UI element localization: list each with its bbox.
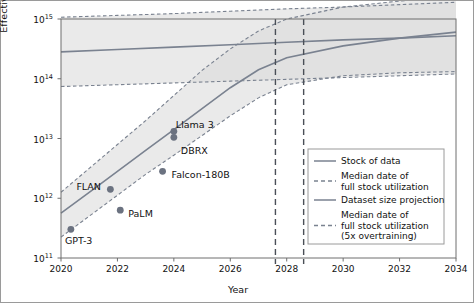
chart-frame: Effective stock (number of tokens) Year … [0, 0, 474, 303]
legend-item-label[interactable]: Stock of data [341, 156, 401, 167]
data-point-dbrx[interactable] [170, 134, 177, 141]
data-point-label: Falcon-180B [172, 169, 230, 180]
data-point-falcon-180b[interactable] [159, 168, 166, 175]
data-point-label: GPT-3 [65, 235, 93, 246]
legend-item-label[interactable]: Dataset size projection [341, 195, 444, 206]
x-tick-label: 2022 [97, 264, 137, 274]
data-point-label: DBRX [181, 145, 208, 156]
y-tick-label: 1013 [19, 133, 53, 145]
x-tick-label: 2034 [436, 264, 474, 274]
legend-item-label[interactable]: Median date offull stock utilization [341, 171, 429, 192]
data-point-label: Llama 3 [176, 119, 214, 130]
x-tick-label: 2032 [380, 264, 420, 274]
plot-stage [1, 1, 474, 303]
x-tick-label: 2028 [267, 264, 307, 274]
data-point-label: FLAN [76, 181, 101, 192]
x-tick-label: 2030 [323, 264, 363, 274]
x-tick-label: 2026 [210, 264, 250, 274]
data-point-gpt-3[interactable] [67, 226, 74, 233]
data-point-label: PaLM [128, 208, 153, 219]
x-tick-label: 2020 [41, 264, 81, 274]
y-tick-label: 1012 [19, 192, 53, 204]
data-point-flan[interactable] [107, 186, 114, 193]
legend-item-label[interactable]: Median date offull stock utilization(5x … [341, 210, 429, 242]
x-tick-label: 2024 [154, 264, 194, 274]
data-point-palm[interactable] [117, 207, 124, 214]
chart-canvas [1, 1, 474, 303]
y-tick-label: 1014 [19, 73, 53, 85]
y-tick-label: 1011 [19, 252, 53, 264]
y-tick-label: 1015 [19, 13, 53, 25]
